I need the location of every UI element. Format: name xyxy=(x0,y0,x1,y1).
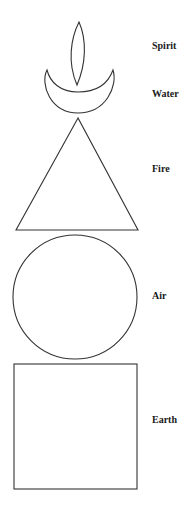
fire-label: Fire xyxy=(152,163,170,174)
water-element: Water xyxy=(45,70,179,113)
earth-label: Earth xyxy=(152,414,177,425)
water-crescent-icon xyxy=(45,70,114,113)
fire-triangle-icon xyxy=(16,118,138,230)
elements-diagram: Spirit Water Fire Air Earth xyxy=(0,0,187,515)
air-circle-icon xyxy=(13,235,137,359)
air-element: Air xyxy=(13,235,167,359)
spirit-element: Spirit xyxy=(71,22,177,85)
earth-square-icon xyxy=(14,364,137,489)
spirit-label: Spirit xyxy=(152,40,177,51)
water-label: Water xyxy=(152,88,179,99)
fire-element: Fire xyxy=(16,118,170,230)
earth-element: Earth xyxy=(14,364,177,489)
air-label: Air xyxy=(152,290,167,301)
spirit-leaf-icon xyxy=(71,22,84,85)
